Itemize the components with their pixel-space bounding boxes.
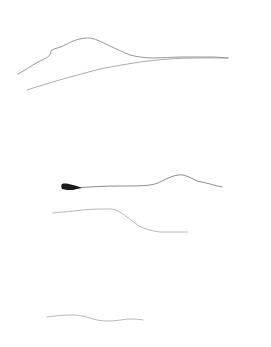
sketch-drawing xyxy=(0,0,271,347)
canvas-background xyxy=(0,0,271,347)
sketch-canvas xyxy=(0,0,271,347)
